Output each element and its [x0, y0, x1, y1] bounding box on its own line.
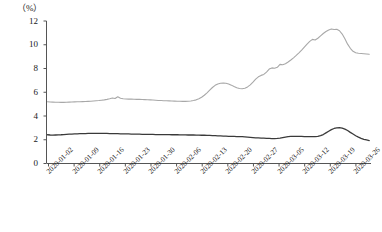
y-tick-label: 12 [16, 17, 38, 26]
y-tick-label: 0 [16, 159, 38, 168]
series-line-upper [48, 29, 370, 102]
y-tick-label: 2 [16, 135, 38, 144]
y-tick-label: 6 [16, 88, 38, 97]
y-tick-label: 8 [16, 64, 38, 73]
axes-group [44, 21, 372, 167]
y-tick-label: 4 [16, 112, 38, 121]
data-series-group [48, 29, 370, 141]
y-tick-label: 10 [16, 40, 38, 49]
series-line-lower [48, 128, 370, 141]
